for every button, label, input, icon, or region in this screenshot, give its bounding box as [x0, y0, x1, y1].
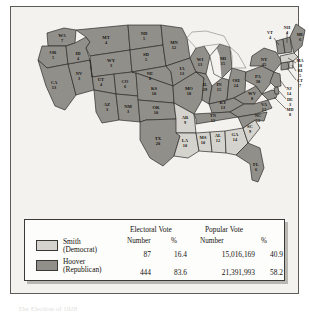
candidate-party-hoover: (Republican) [63, 266, 102, 274]
legend-swatch-smith [36, 240, 58, 251]
candidate-party-smith: (Democrat) [63, 246, 97, 254]
header-electoral-vote: Electoral Vote [130, 225, 172, 234]
legend-label-hoover: Hoover (Republican) [63, 258, 102, 275]
subheader-electoral-percent: % [171, 237, 177, 245]
leader-MD [274, 97, 286, 109]
election-map-figure: WA7 OR5 CA13 NV3 ID4 MT4 WY3 UT4 CO6 AZ3… [0, 0, 309, 314]
us-map-svg: WA7 OR5 CA13 NV3 ID4 MT4 WY3 UT4 CO6 AZ3… [24, 16, 307, 221]
subheader-electoral-number: Number [127, 237, 151, 245]
hoover-electoral-number: 444 [123, 268, 151, 277]
legend-panel: Electoral Vote Popular Vote Number % Num… [24, 219, 285, 281]
legend-swatch-hoover [36, 260, 58, 271]
label-RI: RI5 [298, 68, 303, 78]
label-VT: VT4 [267, 30, 273, 40]
leader-DE [279, 91, 286, 99]
label-DE: DE3 [287, 97, 293, 107]
state-ME[interactable] [290, 24, 305, 53]
subheader-popular-percent: % [261, 237, 267, 245]
label-MA: MA18 [297, 58, 304, 68]
hoover-popular-number: 21,391,993 [193, 268, 255, 277]
figure-caption-clipped: The Election of 1928 [18, 305, 258, 314]
us-map: WA7 OR5 CA13 NV3 ID4 MT4 WY3 UT4 CO6 AZ3… [24, 16, 307, 221]
smith-popular-number: 15,016,169 [193, 250, 255, 259]
label-CT: CT7 [297, 78, 303, 88]
label-MD: MD8 [287, 107, 294, 117]
header-popular-vote: Popular Vote [205, 225, 243, 234]
lake-huron-erie [230, 47, 246, 68]
state-DE[interactable] [274, 87, 279, 94]
state-RI[interactable] [289, 61, 293, 68]
hoover-popular-percent: 58.2 [257, 268, 283, 277]
leader-CT [287, 68, 296, 80]
smith-electoral-number: 87 [123, 250, 151, 259]
smith-popular-percent: 40.9 [257, 250, 283, 259]
legend-label-smith: Smith (Democrat) [63, 238, 97, 255]
label-NH: NH4 [284, 25, 291, 35]
label-IL: IL29 [203, 82, 208, 92]
state-MA[interactable] [280, 53, 298, 63]
hoover-electoral-percent: 83.6 [161, 268, 187, 277]
label-NJ: NJ14 [286, 86, 292, 96]
smith-electoral-percent: 16.4 [161, 250, 187, 259]
subheader-popular-number: Number [200, 237, 224, 245]
